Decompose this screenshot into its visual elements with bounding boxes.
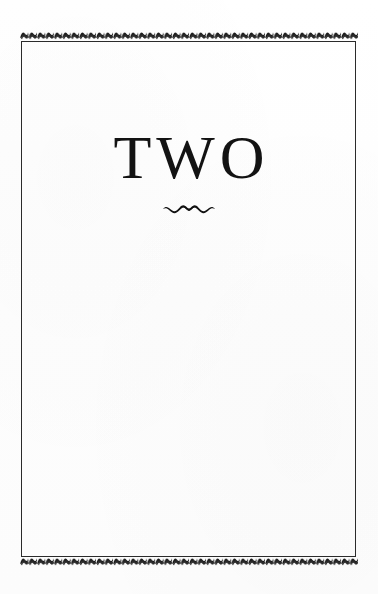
zigzag-band-bottom-icon bbox=[20, 556, 358, 567]
zigzag-band-top-icon bbox=[20, 30, 358, 41]
page-title: TWO bbox=[0, 124, 378, 190]
chapter-title-page: TWO bbox=[0, 0, 378, 594]
wave-flourish-ornament-icon bbox=[0, 203, 378, 218]
rule-frame bbox=[21, 41, 356, 557]
